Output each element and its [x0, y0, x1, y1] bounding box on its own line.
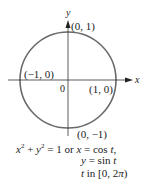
caption-line-2: y = sin t	[81, 154, 116, 167]
x-axis-label: x	[135, 74, 139, 86]
y-axis-label: y	[66, 7, 70, 19]
point-label-left: (−1, 0)	[24, 68, 54, 80]
y-axis-arrow-icon	[66, 20, 71, 28]
caption-line-3: t in [0, 2π)	[81, 167, 127, 180]
point-label-bottom: (0, −1)	[77, 128, 107, 140]
x-axis-arrow-icon	[125, 78, 133, 83]
origin-label: 0	[60, 83, 65, 95]
point-label-right: (1, 0)	[89, 83, 113, 95]
point-label-top: (0, 1)	[71, 20, 95, 32]
